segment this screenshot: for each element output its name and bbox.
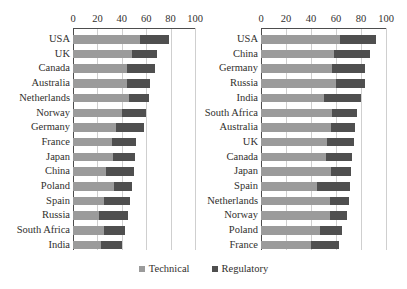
bar-segment-regulatory[interactable] [336, 79, 365, 88]
bar-segment-regulatory[interactable] [332, 64, 365, 73]
bar-row[interactable]: Netherlands [73, 91, 195, 106]
bar-row[interactable]: Netherlands [261, 194, 386, 209]
bar-row[interactable]: France [73, 135, 195, 150]
bar-segment-regulatory[interactable] [132, 50, 158, 59]
stacked-bar[interactable] [73, 226, 125, 235]
bar-segment-technical[interactable] [261, 94, 324, 103]
bar-segment-regulatory[interactable] [320, 226, 343, 235]
legend-item-technical[interactable]: Technical [139, 262, 190, 275]
bar-row[interactable]: Poland [73, 179, 195, 194]
bar-row[interactable]: Canada [73, 61, 195, 76]
bar-segment-technical[interactable] [73, 167, 106, 176]
bar-segment-regulatory[interactable] [116, 123, 144, 132]
bar-segment-technical[interactable] [73, 138, 112, 147]
bar-row[interactable]: UK [73, 47, 195, 62]
bar-segment-technical[interactable] [261, 241, 311, 250]
bar-segment-technical[interactable] [73, 94, 129, 103]
stacked-bar[interactable] [261, 167, 351, 176]
bar-segment-regulatory[interactable] [122, 109, 146, 118]
bar-segment-technical[interactable] [73, 123, 116, 132]
bar-segment-technical[interactable] [73, 226, 104, 235]
bar-segment-regulatory[interactable] [101, 241, 122, 250]
stacked-bar[interactable] [73, 182, 132, 191]
bar-segment-regulatory[interactable] [324, 94, 362, 103]
bar-row[interactable]: Norway [261, 208, 386, 223]
bar-segment-technical[interactable] [261, 35, 340, 44]
bar-segment-regulatory[interactable] [334, 50, 370, 59]
bar-row[interactable]: Russia [261, 76, 386, 91]
stacked-bar[interactable] [73, 241, 122, 250]
bar-segment-technical[interactable] [73, 50, 132, 59]
bar-segment-technical[interactable] [73, 182, 114, 191]
stacked-bar[interactable] [261, 79, 365, 88]
legend-item-regulatory[interactable]: Regulatory [212, 262, 269, 275]
bar-row[interactable]: France [261, 238, 386, 253]
bar-segment-regulatory[interactable] [327, 138, 353, 147]
bar-row[interactable]: Spain [261, 179, 386, 194]
bar-segment-regulatory[interactable] [140, 35, 169, 44]
bar-row[interactable]: Australia [261, 120, 386, 135]
stacked-bar[interactable] [73, 167, 134, 176]
bar-segment-technical[interactable] [261, 50, 334, 59]
bar-segment-regulatory[interactable] [113, 153, 135, 162]
bar-row[interactable]: India [261, 91, 386, 106]
bar-segment-regulatory[interactable] [340, 35, 376, 44]
stacked-bar[interactable] [261, 138, 354, 147]
bar-segment-regulatory[interactable] [106, 167, 134, 176]
bar-segment-technical[interactable] [261, 197, 330, 206]
stacked-bar[interactable] [73, 64, 155, 73]
stacked-bar[interactable] [73, 79, 150, 88]
bar-row[interactable]: USA [73, 32, 195, 47]
bar-segment-technical[interactable] [261, 64, 332, 73]
bar-segment-technical[interactable] [261, 226, 320, 235]
stacked-bar[interactable] [261, 182, 350, 191]
stacked-bar[interactable] [73, 153, 135, 162]
bar-row[interactable]: India [73, 238, 195, 253]
bar-row[interactable]: Spain [73, 194, 195, 209]
stacked-bar[interactable] [261, 50, 370, 59]
bar-segment-regulatory[interactable] [129, 94, 149, 103]
bar-segment-technical[interactable] [73, 35, 140, 44]
bar-row[interactable]: Germany [261, 61, 386, 76]
bar-segment-technical[interactable] [261, 79, 336, 88]
bar-segment-regulatory[interactable] [127, 79, 150, 88]
stacked-bar[interactable] [73, 197, 130, 206]
bar-segment-technical[interactable] [261, 211, 330, 220]
bar-segment-technical[interactable] [261, 138, 327, 147]
bar-segment-technical[interactable] [73, 197, 104, 206]
stacked-bar[interactable] [261, 226, 342, 235]
bar-row[interactable]: Japan [261, 164, 386, 179]
bar-segment-technical[interactable] [261, 167, 331, 176]
bar-row[interactable]: Russia [73, 208, 195, 223]
bar-segment-technical[interactable] [261, 182, 317, 191]
bar-row[interactable]: China [73, 164, 195, 179]
stacked-bar[interactable] [261, 109, 357, 118]
bar-segment-technical[interactable] [73, 109, 122, 118]
bar-row[interactable]: Germany [73, 120, 195, 135]
bar-segment-regulatory[interactable] [127, 64, 155, 73]
stacked-bar[interactable] [73, 35, 169, 44]
stacked-bar[interactable] [261, 241, 339, 250]
bar-segment-technical[interactable] [261, 109, 332, 118]
bar-segment-regulatory[interactable] [330, 211, 348, 220]
bar-segment-technical[interactable] [73, 241, 101, 250]
bar-segment-technical[interactable] [261, 123, 331, 132]
bar-segment-technical[interactable] [73, 79, 127, 88]
bar-segment-regulatory[interactable] [99, 211, 128, 220]
bar-segment-regulatory[interactable] [332, 109, 357, 118]
bar-segment-regulatory[interactable] [112, 138, 136, 147]
stacked-bar[interactable] [261, 94, 361, 103]
bar-row[interactable]: Australia [73, 76, 195, 91]
bar-segment-technical[interactable] [73, 211, 99, 220]
stacked-bar[interactable] [73, 138, 136, 147]
stacked-bar[interactable] [261, 35, 376, 44]
stacked-bar[interactable] [73, 123, 144, 132]
bar-row[interactable]: USA [261, 32, 386, 47]
bar-segment-technical[interactable] [261, 153, 326, 162]
stacked-bar[interactable] [73, 94, 149, 103]
bar-segment-regulatory[interactable] [331, 123, 355, 132]
bar-row[interactable]: UK [261, 135, 386, 150]
bar-segment-technical[interactable] [73, 64, 127, 73]
stacked-bar[interactable] [261, 197, 349, 206]
stacked-bar[interactable] [73, 211, 128, 220]
